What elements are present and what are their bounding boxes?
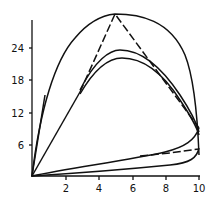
inner-arc-upper [80, 50, 199, 132]
x-tick-label: 4 [96, 183, 102, 194]
y-tick-label: 12 [11, 108, 24, 119]
x-tick-label: 8 [163, 183, 169, 194]
x-tick-label: 10 [193, 183, 206, 194]
axes [29, 20, 200, 180]
dashed-triangle [80, 14, 199, 128]
chart-svg: 2 4 6 8 10 6 12 18 24 [0, 0, 213, 206]
x-tick-label: 2 [63, 183, 69, 194]
y-tick-label: 24 [11, 43, 24, 54]
x-tick-labels: 2 4 6 8 10 [63, 183, 206, 194]
y-tick-label: 6 [18, 140, 24, 151]
y-tick-labels: 6 12 18 24 [11, 43, 24, 151]
chart-container: 2 4 6 8 10 6 12 18 24 [0, 0, 213, 206]
series [32, 14, 199, 176]
y-tick-label: 18 [11, 75, 24, 86]
x-tick-label: 6 [130, 183, 136, 194]
